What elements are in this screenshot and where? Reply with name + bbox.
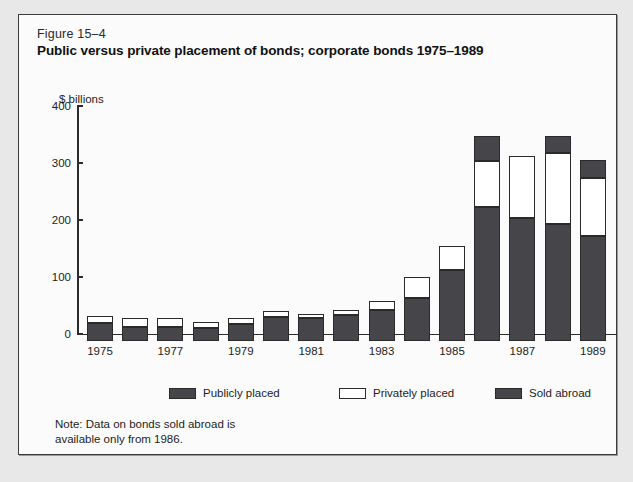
bar-segment-privately-placed xyxy=(298,314,324,319)
figure-note: Note: Data on bonds sold abroad is avail… xyxy=(55,417,235,447)
bar-segment-publicly-placed xyxy=(157,327,183,341)
bar-segment-publicly-placed xyxy=(87,323,113,341)
bar-segment-publicly-placed xyxy=(509,218,535,341)
bar-segment-publicly-placed xyxy=(545,224,571,341)
y-tick-mark xyxy=(77,162,83,164)
bar-segment-privately-placed xyxy=(157,318,183,327)
bar-1980 xyxy=(263,311,289,341)
bar-segment-publicly-placed xyxy=(404,298,430,341)
bar-segment-privately-placed xyxy=(193,322,219,329)
x-tick-label: 1987 xyxy=(500,345,544,357)
x-tick-label: 1985 xyxy=(430,345,474,357)
bar-segment-privately-placed xyxy=(404,277,430,298)
chart-legend: Publicly placedPrivately placedSold abro… xyxy=(77,387,622,403)
y-tick-label: 400 xyxy=(37,100,71,112)
y-tick-mark xyxy=(77,276,83,278)
bar-1976 xyxy=(122,318,148,341)
bar-1977 xyxy=(157,318,183,341)
bar-segment-privately-placed xyxy=(263,311,289,316)
legend-item-sold-abroad: Sold abroad xyxy=(495,387,591,399)
bar-1978 xyxy=(193,322,219,341)
bar-1979 xyxy=(228,318,254,341)
bar-segment-privately-placed xyxy=(333,310,359,316)
y-tick-label: 200 xyxy=(37,214,71,226)
bar-segment-privately-placed xyxy=(369,301,395,310)
bar-1981 xyxy=(298,314,324,341)
y-tick-label: 300 xyxy=(37,157,71,169)
y-tick-mark xyxy=(77,333,83,335)
y-tick-label: 100 xyxy=(37,271,71,283)
bar-segment-publicly-placed xyxy=(193,328,219,341)
bar-1975 xyxy=(87,316,113,341)
bar-segment-privately-placed xyxy=(87,316,113,323)
bar-segment-privately-placed xyxy=(439,246,465,270)
bar-segment-privately-placed xyxy=(122,318,148,327)
legend-label: Privately placed xyxy=(373,387,454,399)
y-tick-mark xyxy=(77,219,83,221)
bar-1983 xyxy=(369,301,395,341)
x-tick-label: 1977 xyxy=(148,345,192,357)
bar-1987 xyxy=(509,156,535,341)
y-tick-mark xyxy=(77,105,83,107)
legend-label: Publicly placed xyxy=(203,387,280,399)
bar-segment-privately-placed xyxy=(474,161,500,207)
page-background: Figure 15–4 Public versus private placem… xyxy=(0,0,633,482)
bar-1988 xyxy=(545,136,571,341)
bar-segment-publicly-placed xyxy=(439,270,465,341)
bar-segment-publicly-placed xyxy=(333,315,359,341)
bar-1982 xyxy=(333,310,359,341)
bar-segment-publicly-placed xyxy=(580,236,606,341)
bar-segment-privately-placed xyxy=(228,318,254,324)
bar-segment-privately-placed xyxy=(509,156,535,219)
legend-swatch-icon xyxy=(495,388,522,399)
bar-segment-sold-abroad xyxy=(580,160,606,178)
bar-segment-publicly-placed xyxy=(228,324,254,341)
bar-segment-publicly-placed xyxy=(263,317,289,342)
note-line-2: available only from 1986. xyxy=(55,432,235,447)
note-line-1: Note: Data on bonds sold abroad is xyxy=(55,417,235,432)
bar-segment-privately-placed xyxy=(580,178,606,236)
bar-1989 xyxy=(580,160,606,341)
figure-frame: Figure 15–4 Public versus private placem… xyxy=(18,14,617,455)
bar-segment-sold-abroad xyxy=(545,136,571,153)
x-tick-label: 1979 xyxy=(219,345,263,357)
bar-segment-sold-abroad xyxy=(474,136,500,162)
legend-item-publicly-placed: Publicly placed xyxy=(169,387,280,399)
bar-segment-publicly-placed xyxy=(122,327,148,341)
y-tick-label: 0 xyxy=(37,328,71,340)
legend-swatch-icon xyxy=(169,388,196,399)
legend-swatch-icon xyxy=(339,388,366,399)
bar-segment-publicly-placed xyxy=(474,207,500,341)
bar-1985 xyxy=(439,246,465,341)
bar-segment-publicly-placed xyxy=(298,318,324,341)
plot-area: 0100200300400 19751977197919811983198519… xyxy=(77,106,622,341)
bar-1984 xyxy=(404,277,430,341)
bar-segment-publicly-placed xyxy=(369,310,395,341)
legend-label: Sold abroad xyxy=(529,387,591,399)
x-tick-label: 1989 xyxy=(571,345,615,357)
legend-item-privately-placed: Privately placed xyxy=(339,387,454,399)
figure-number: Figure 15–4 xyxy=(37,27,106,41)
bar-segment-privately-placed xyxy=(545,153,571,224)
x-tick-label: 1983 xyxy=(360,345,404,357)
figure-title: Public versus private placement of bonds… xyxy=(37,43,483,58)
x-tick-label: 1981 xyxy=(289,345,333,357)
bar-1986 xyxy=(474,136,500,341)
x-tick-label: 1975 xyxy=(78,345,122,357)
